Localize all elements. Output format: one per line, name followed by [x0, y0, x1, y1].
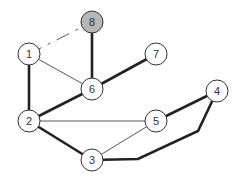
node-label: 4	[214, 85, 220, 97]
edges-layer	[29, 22, 217, 160]
graph-diagram: 12345678	[0, 0, 243, 181]
node-4: 4	[206, 80, 228, 102]
node-5: 5	[145, 110, 167, 132]
node-label: 5	[153, 115, 159, 127]
node-8: 8	[81, 11, 103, 33]
node-3: 3	[81, 149, 103, 171]
nodes-layer: 12345678	[18, 11, 228, 171]
node-label: 8	[89, 16, 95, 28]
node-1: 1	[18, 43, 40, 65]
node-label: 1	[26, 48, 32, 60]
node-2: 2	[18, 110, 40, 132]
node-label: 6	[89, 83, 95, 95]
node-7: 7	[145, 43, 167, 65]
node-label: 7	[153, 48, 159, 60]
node-label: 3	[89, 154, 95, 166]
node-6: 6	[81, 78, 103, 100]
node-label: 2	[26, 115, 32, 127]
